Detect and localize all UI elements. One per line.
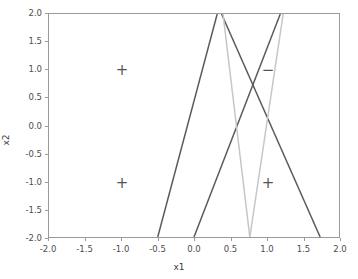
- y-tick-label: 0.0: [28, 121, 42, 131]
- x-tick-label: -1.0: [113, 244, 130, 254]
- y-tick-mark: [45, 126, 48, 127]
- y-tick-mark: [45, 69, 48, 70]
- data-point-positive: +: [116, 175, 129, 190]
- x-tick-mark: [158, 238, 159, 241]
- x-tick-label: -1.5: [76, 244, 93, 254]
- y-tick-label: -2.0: [25, 233, 42, 243]
- x-tick-label: 0.0: [187, 244, 201, 254]
- x-tick-mark: [121, 238, 122, 241]
- y-tick-label: -1.0: [25, 177, 42, 187]
- y-tick-label: 2.0: [28, 8, 42, 18]
- line-boundary-1: [158, 14, 217, 237]
- figure-canvas: ++−+ -2.0-1.5-1.0-0.50.00.51.01.52.0 -2.…: [0, 0, 358, 279]
- x-tick-mark: [340, 238, 341, 241]
- y-tick-mark: [45, 182, 48, 183]
- y-tick-label: -1.5: [25, 205, 42, 215]
- x-tick-label: 2.0: [333, 244, 347, 254]
- y-tick-mark: [45, 13, 48, 14]
- line-boundary-5: [250, 14, 283, 237]
- y-tick-mark: [45, 97, 48, 98]
- x-tick-mark: [85, 238, 86, 241]
- y-axis-label: x2: [1, 134, 11, 145]
- x-tick-mark: [194, 238, 195, 241]
- y-tick-label: 1.0: [28, 64, 42, 74]
- x-tick-label: -0.5: [149, 244, 166, 254]
- x-axis-label: x1: [173, 262, 184, 272]
- y-tick-mark: [45, 154, 48, 155]
- x-tick-label: -2.0: [40, 244, 57, 254]
- x-tick-label: 0.5: [224, 244, 238, 254]
- y-tick-mark: [45, 210, 48, 211]
- x-tick-mark: [304, 238, 305, 241]
- x-tick-mark: [267, 238, 268, 241]
- y-tick-mark: [45, 238, 48, 239]
- y-tick-label: 0.5: [28, 92, 42, 102]
- x-tick-mark: [231, 238, 232, 241]
- x-tick-label: 1.5: [297, 244, 311, 254]
- x-tick-label: 1.0: [260, 244, 274, 254]
- data-point-negative: −: [262, 63, 275, 78]
- x-tick-mark: [48, 238, 49, 241]
- plot-area: ++−+: [48, 13, 340, 238]
- data-point-positive: +: [116, 63, 129, 78]
- y-tick-label: 1.5: [28, 36, 42, 46]
- y-tick-label: -0.5: [25, 149, 42, 159]
- decision-boundary-lines: [49, 14, 339, 237]
- data-point-positive: +: [262, 175, 275, 190]
- y-tick-mark: [45, 41, 48, 42]
